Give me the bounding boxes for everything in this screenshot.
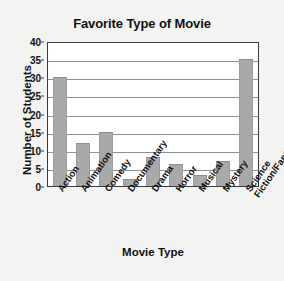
y-axis-tick-mark <box>41 150 44 151</box>
x-axis-title: Movie Type <box>47 246 259 258</box>
y-axis-tick-label: 10 <box>30 145 41 156</box>
y-axis-tick-label: 35 <box>30 55 41 66</box>
bar-chart-figure: Favorite Type of Movie Number of Student… <box>0 0 284 281</box>
y-axis-tick-labels: 0510152025303540 <box>20 42 44 187</box>
bar-slot <box>48 43 71 186</box>
y-axis-tick-label: 20 <box>30 109 41 120</box>
y-axis-tick-mark <box>41 132 44 133</box>
y-axis-tick-mark <box>41 60 44 61</box>
chart-title: Favorite Type of Movie <box>0 16 284 31</box>
y-axis-tick-label: 25 <box>30 91 41 102</box>
y-axis-tick-mark <box>41 42 44 43</box>
bar[interactable] <box>53 77 67 186</box>
y-axis-tick-label: 40 <box>30 37 41 48</box>
y-axis-tick-mark <box>41 187 44 188</box>
y-axis-tick-label: 30 <box>30 73 41 84</box>
y-axis-tick-mark <box>41 96 44 97</box>
y-axis-tick-label: 15 <box>30 127 41 138</box>
y-axis-tick-mark <box>41 168 44 169</box>
x-axis-tick-labels: ActionAnimationComedyDocumentaryDramaHor… <box>47 188 259 278</box>
y-axis-tick-mark <box>41 78 44 79</box>
y-axis-tick-mark <box>41 114 44 115</box>
